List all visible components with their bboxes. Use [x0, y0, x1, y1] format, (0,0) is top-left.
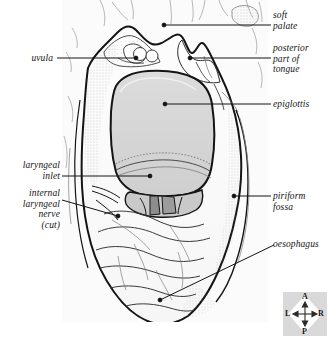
label-posterior-part-of-tongue: posterior part of tongue: [273, 43, 309, 75]
compass-label-posterior: P: [302, 327, 307, 338]
label-epiglottis: epiglottis: [273, 99, 309, 110]
compass-label-left: L: [285, 309, 290, 320]
label-piriform-fossa: piriform fossa: [273, 191, 305, 212]
label-oesophagus: oesophagus: [273, 239, 319, 250]
epiglottis-shape: [111, 71, 215, 197]
label-internal-laryngeal-nerve: internal laryngeal nerve (cut): [4, 188, 60, 230]
compass-label-right: R: [318, 309, 324, 320]
compass-label-anterior: A: [302, 292, 308, 303]
anatomical-figure: soft palate posterior part of tongue epi…: [0, 0, 334, 344]
label-laryngeal-inlet: laryngeal inlet: [4, 160, 60, 181]
label-soft-palate: soft palate: [273, 10, 297, 31]
label-uvula: uvula: [1, 53, 53, 64]
